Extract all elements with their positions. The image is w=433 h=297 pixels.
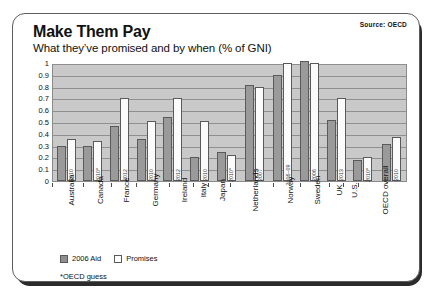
x-tick-mark: [273, 183, 274, 187]
bar-group: 2007: [240, 65, 270, 181]
bar-aid: [110, 126, 119, 181]
x-tick-mark: [193, 183, 194, 187]
bar-group: 2010*: [80, 65, 107, 181]
bar-aid: [163, 117, 172, 181]
bar-group: 2006–09: [269, 65, 296, 181]
y-tick-label: 1: [45, 60, 49, 68]
bar-aid: [273, 75, 282, 181]
bar-group: 2010: [186, 65, 213, 181]
bar-aid: [137, 139, 146, 181]
bar-group: 2012: [160, 65, 187, 181]
bar-promises: 2012: [120, 98, 129, 181]
x-axis-cell: OECD overall: [358, 183, 407, 253]
bar-group: 2006: [296, 65, 323, 181]
bar-promises: 2006–09: [283, 63, 292, 181]
x-tick-mark: [52, 183, 53, 187]
x-axis-cell: Sweden: [300, 183, 329, 253]
bar-promises: 2013: [337, 98, 346, 181]
x-axis-labels: AustraliaCanadaFranceGermanyIrelandItaly…: [52, 183, 407, 253]
footnote: *OECD guess: [60, 272, 107, 281]
x-axis-cell: Ireland: [169, 183, 193, 253]
bar-series-container: 20102010*20122010201220102010*20072006–0…: [53, 65, 406, 181]
bar-group: 2010: [53, 65, 80, 181]
x-axis-cell: Japan: [208, 183, 230, 253]
y-tick-label: 0.9: [39, 72, 49, 80]
x-tick-mark: [300, 183, 301, 187]
bar-aid: [245, 85, 254, 181]
bar-promises: 2006: [310, 63, 319, 181]
y-tick-label: 0.2: [39, 155, 49, 163]
x-tick-mark: [83, 183, 84, 187]
y-tick-label: 0: [45, 178, 49, 186]
source-label: Source: OECD: [360, 21, 407, 28]
x-axis-cell: Netherlands: [230, 183, 273, 253]
bar-promises: 2007: [255, 87, 264, 181]
x-tick-mark: [358, 183, 359, 187]
x-axis-cell: Canada: [83, 183, 111, 253]
legend-label-promises: Promises: [126, 254, 157, 263]
y-tick-label: 0.6: [39, 107, 49, 115]
y-tick-label: 0.4: [39, 131, 49, 139]
x-tick-mark: [169, 183, 170, 187]
x-axis-cell: Italy: [193, 183, 208, 253]
x-tick-mark: [230, 183, 231, 187]
bar-aid: [57, 146, 66, 181]
bar-aid: [300, 61, 309, 181]
x-tick-mark: [208, 183, 209, 187]
chart-card: Make Them Pay What they’ve promised and …: [12, 13, 420, 282]
x-axis-cell: Germany: [136, 183, 169, 253]
y-tick-label: 0.1: [39, 166, 49, 174]
y-tick-label: 0.7: [39, 96, 49, 104]
plot-canvas: 20102010*20122010201220102010*20072006–0…: [52, 64, 407, 182]
bar-promises: 2012: [173, 98, 182, 181]
x-tick-mark: [329, 183, 330, 187]
chart-subtitle: What they’ve promised and by when (% of …: [33, 42, 271, 54]
x-axis-cell: UK: [329, 183, 342, 253]
bar-group: 2013: [323, 65, 350, 181]
chart-title: Make Them Pay: [33, 23, 150, 41]
bar-group: 2012: [106, 65, 133, 181]
chart-legend: 2006 Aid Promises: [60, 254, 157, 263]
legend-swatch-promises: [114, 255, 122, 263]
x-tick-mark: [136, 183, 137, 187]
y-tick-label: 0.5: [39, 119, 49, 127]
x-axis-cell: France: [111, 183, 136, 253]
x-axis-cell: U.S.: [343, 183, 359, 253]
bar-promises: 2010: [200, 121, 209, 181]
y-axis-labels: 00.10.20.30.40.50.60.70.80.91: [33, 64, 49, 182]
x-tick-mark: [111, 183, 112, 187]
bar-group: 2010*: [213, 65, 240, 181]
y-tick-label: 0.3: [39, 143, 49, 151]
bar-group: 2010: [376, 65, 406, 181]
plot-area: 00.10.20.30.40.50.60.70.80.91 20102010*2…: [33, 64, 407, 199]
x-axis-cell: Norway: [273, 183, 300, 253]
bar-aid: [217, 152, 226, 182]
bar-group: 2010: [133, 65, 160, 181]
bar-group: 2010*: [349, 65, 376, 181]
x-axis-cell: Australia: [52, 183, 83, 253]
x-tick-mark: [343, 183, 344, 187]
page-root: Make Them Pay What they’ve promised and …: [0, 0, 433, 297]
legend-swatch-aid: [60, 255, 68, 263]
bar-aid: [327, 120, 336, 181]
x-tick-label: OECD overall: [383, 166, 420, 215]
legend-label-aid: 2006 Aid: [72, 254, 101, 263]
y-tick-label: 0.8: [39, 84, 49, 92]
bar-promises: 2010: [147, 121, 156, 181]
